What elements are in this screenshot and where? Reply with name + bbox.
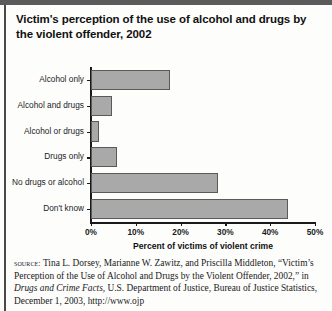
x-axis-tick — [225, 222, 226, 226]
source-text-part1: Tina L. Dorsey, Marianne W. Zawitz, and … — [14, 258, 314, 281]
left-rule-divider — [4, 5, 6, 311]
bar-row: Don't know — [91, 196, 315, 222]
y-axis-label: Alcohol or drugs — [24, 126, 84, 136]
bar — [91, 199, 288, 219]
top-rule-divider — [0, 0, 332, 5]
bar-row: Drugs only — [91, 145, 315, 171]
x-axis-tick-label: 0% — [85, 227, 97, 237]
bar — [91, 173, 218, 193]
bar — [91, 96, 112, 116]
source-note: source: Tina L. Dorsey, Marianne W. Zawi… — [14, 257, 326, 307]
x-axis-title: Percent of victims of violent crime — [91, 241, 315, 251]
source-label: source: — [14, 258, 41, 268]
bar-row: Alcohol or drugs — [91, 119, 315, 145]
plot-area: Alcohol onlyAlcohol and drugsAlcohol or … — [91, 67, 315, 222]
chart-title: Victim's perception of the use of alcoho… — [16, 12, 316, 42]
x-axis-tick-label: 40% — [262, 227, 279, 237]
x-axis-tick — [315, 222, 316, 226]
x-axis-tick — [181, 222, 182, 226]
source-publication-title: Drugs and Crime Facts — [14, 283, 103, 293]
x-axis-tick — [136, 222, 137, 226]
bar — [91, 147, 117, 167]
bar-row: Alcohol and drugs — [91, 93, 315, 119]
y-axis-label: Drugs only — [44, 151, 84, 161]
x-axis-line — [90, 222, 315, 224]
bar-row: Alcohol only — [91, 67, 315, 93]
bar — [91, 121, 99, 141]
x-axis-tick-label: 50% — [307, 227, 324, 237]
y-axis-label: No drugs or alcohol — [12, 177, 84, 187]
y-axis-label: Alcohol and drugs — [18, 100, 84, 110]
bar-row: No drugs or alcohol — [91, 170, 315, 196]
y-axis-label: Alcohol only — [39, 74, 84, 84]
x-axis-tick-label: 30% — [217, 227, 234, 237]
y-axis-label: Don't know — [43, 203, 84, 213]
x-axis-tick-label: 10% — [127, 227, 144, 237]
bar — [91, 70, 170, 90]
x-axis-tick — [91, 222, 92, 226]
x-axis-tick — [270, 222, 271, 226]
x-axis-tick-label: 20% — [172, 227, 189, 237]
figure-container: Victim's perception of the use of alcoho… — [0, 0, 332, 311]
